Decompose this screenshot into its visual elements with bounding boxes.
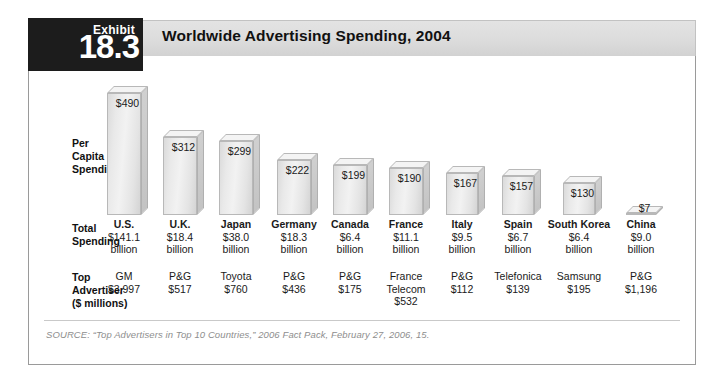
advertiser-name: P&G [601,270,681,283]
country-name: China [601,218,681,231]
bar-value-label: $190 [389,172,430,184]
bar-side-face [534,169,541,215]
source-divider [44,320,680,321]
total-spending-china: China$9.0billion [601,218,681,256]
source-note: SOURCE: “Top Advertisers in Top 10 Count… [46,329,429,340]
bar-front-face [107,93,141,215]
bar-value-label: $312 [163,141,204,153]
total-amount: $9.0 [601,231,681,244]
total-unit: billion [601,243,681,256]
bar-side-face [311,153,318,215]
bar-value-label: $7 [626,202,663,214]
advertiser-amount: $1,196 [601,283,681,296]
advertiser-amount: $532 [366,295,446,308]
bar-value-label: $130 [563,187,602,199]
top-advertiser-china: P&G$1,196 [601,270,681,295]
bar-italy [446,166,485,215]
bar-value-label: $490 [107,97,148,109]
bar-value-label: $199 [333,169,374,181]
bar-side-face [478,166,485,215]
bar-value-label: $222 [277,164,318,176]
bar-side-face [367,158,374,215]
bar-side-face [423,161,430,215]
bar-france [389,161,430,215]
bar-spain [502,169,541,215]
bars-layer: $490$312$299$222$199$190$167$157$130$7 [28,34,696,365]
bar-canada [333,158,374,215]
chart-area: Per Capita Spending Total Spending Top A… [28,34,696,365]
bar-value-label: $167 [446,177,485,189]
bar-value-label: $299 [219,145,260,157]
bar-value-label: $157 [502,180,541,192]
bar-germany [277,153,318,215]
